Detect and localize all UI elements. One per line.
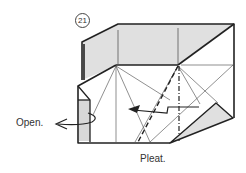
open-label: Open. <box>16 117 43 128</box>
pleat-label: Pleat. <box>140 153 166 164</box>
left-flap-shaded <box>79 100 90 141</box>
step-number-badge: 21 <box>75 13 90 28</box>
origami-box-diagram <box>0 0 246 173</box>
